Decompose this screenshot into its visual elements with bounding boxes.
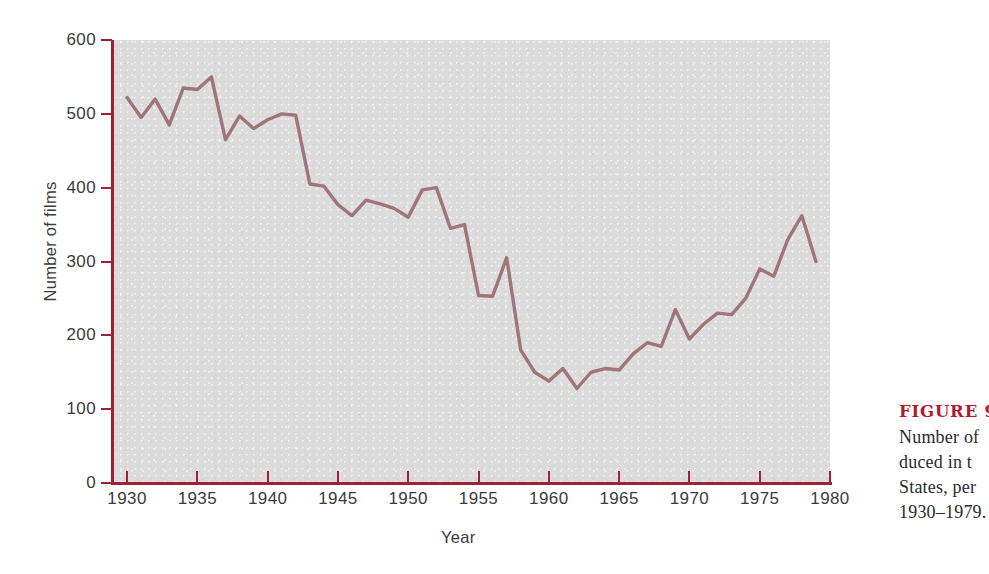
x-axis-tick-label: 1935 (167, 489, 227, 509)
y-axis-tick (101, 187, 112, 189)
x-axis-tick (407, 471, 409, 483)
x-axis-tick-label: 1965 (589, 489, 649, 509)
x-axis-tick (759, 471, 761, 483)
x-axis-tick (126, 471, 128, 483)
x-axis-tick (829, 471, 831, 483)
y-axis-title: Number of films (41, 147, 60, 337)
x-axis-tick-label: 1940 (238, 489, 298, 509)
plot-area (113, 40, 830, 483)
y-axis-tick (101, 261, 112, 263)
x-axis-tick (267, 471, 269, 483)
chart-line-svg (113, 40, 830, 483)
y-axis-tick-label: 600 (40, 30, 96, 50)
x-axis-tick (548, 471, 550, 483)
y-axis-tick (101, 482, 112, 484)
y-axis-tick (101, 334, 112, 336)
x-axis-tick (337, 471, 339, 483)
figure-caption-line: Number of (899, 425, 989, 450)
figure-caption-line: duced in t (899, 450, 989, 475)
x-axis-tick (618, 471, 620, 483)
figure-caption-line: 1930–1979. (899, 500, 989, 525)
film-count-line (127, 77, 816, 389)
figure-caption-line: States, per (899, 475, 989, 500)
x-axis-line (111, 482, 832, 485)
x-axis-tick-label: 1945 (308, 489, 368, 509)
figure-caption-header: FIGURE 9 (899, 402, 989, 421)
x-axis-tick (688, 471, 690, 483)
x-axis-tick-label: 1970 (659, 489, 719, 509)
x-axis-tick (196, 471, 198, 483)
x-axis-tick-label: 1930 (97, 489, 157, 509)
x-axis-tick-label: 1975 (730, 489, 790, 509)
y-axis-tick-label: 500 (40, 104, 96, 124)
x-axis-tick-label: 1980 (800, 489, 860, 509)
y-axis-tick-label: 0 (40, 473, 96, 493)
y-axis-tick (101, 39, 112, 41)
y-axis-tick-label: 100 (40, 399, 96, 419)
x-axis-tick-label: 1960 (519, 489, 579, 509)
y-axis-tick (101, 408, 112, 410)
x-axis-tick-label: 1950 (378, 489, 438, 509)
figure-caption: FIGURE 9 Number of duced in t States, pe… (899, 402, 989, 525)
x-axis-title: Year (441, 528, 476, 547)
x-axis-tick (478, 471, 480, 483)
figure-page: 0100200300400500600 19301935194019451950… (0, 0, 989, 574)
x-axis-tick-label: 1955 (449, 489, 509, 509)
y-axis-tick (101, 113, 112, 115)
